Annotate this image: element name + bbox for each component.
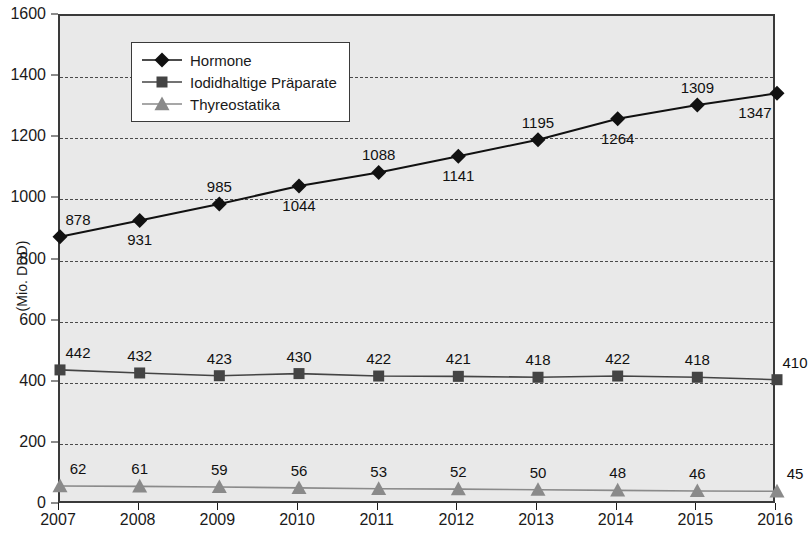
- data-point-label: 931: [127, 232, 152, 247]
- data-point-label: 421: [446, 351, 471, 366]
- plot-area: 8789319851044108811411195126413091347442…: [58, 14, 775, 503]
- data-point-label: 45: [787, 466, 804, 481]
- x-tick-label: 2008: [103, 512, 173, 528]
- y-tick-label: 200: [0, 434, 46, 450]
- series-2: [55, 364, 783, 385]
- y-tick-label: 1000: [0, 189, 46, 205]
- data-point-marker: [294, 368, 305, 379]
- data-point-label: 410: [782, 354, 807, 369]
- data-point-marker: [214, 370, 225, 381]
- x-tick-mark: [138, 503, 139, 510]
- data-point-marker: [53, 229, 68, 244]
- data-point-label: 52: [450, 464, 467, 479]
- y-tick-mark: [51, 197, 58, 198]
- data-point-marker: [770, 86, 785, 101]
- data-point-marker: [451, 149, 466, 164]
- data-point-marker: [692, 372, 703, 383]
- data-point-marker: [453, 371, 464, 382]
- data-point-label: 62: [70, 461, 87, 476]
- x-tick-label: 2009: [182, 512, 252, 528]
- data-point-label: 56: [291, 462, 308, 477]
- data-point-label: 1044: [282, 197, 315, 212]
- diamond-marker-icon: [140, 50, 184, 70]
- plot-inner: 8789319851044108811411195126413091347442…: [60, 16, 773, 501]
- data-point-label: 50: [530, 464, 547, 479]
- y-tick-label: 400: [0, 373, 46, 389]
- legend-item-1[interactable]: Hormone: [140, 49, 337, 71]
- x-tick-mark: [377, 503, 378, 510]
- series-line: [60, 370, 777, 380]
- x-tick-mark: [536, 503, 537, 510]
- data-point-marker: [134, 367, 145, 378]
- x-tick-label: 2010: [262, 512, 332, 528]
- data-point-label: 1195: [522, 114, 554, 129]
- x-tick-mark: [297, 503, 298, 510]
- data-point-label: 61: [131, 461, 148, 476]
- data-point-marker: [55, 364, 66, 375]
- legend-item-label: Hormone: [184, 53, 252, 68]
- x-tick-mark: [456, 503, 457, 510]
- legend-item-3[interactable]: Thyreostatika: [140, 93, 337, 115]
- x-tick-mark: [775, 503, 776, 510]
- y-tick-mark: [51, 319, 58, 320]
- data-point-marker: [531, 132, 546, 147]
- series-3: [53, 479, 785, 498]
- series-line: [60, 486, 777, 491]
- x-tick-mark: [217, 503, 218, 510]
- data-point-marker: [612, 371, 623, 382]
- y-tick-mark: [51, 441, 58, 442]
- data-point-marker: [132, 213, 147, 228]
- x-tick-label: 2014: [581, 512, 651, 528]
- data-point-marker: [772, 374, 783, 385]
- triangle-marker-icon: [140, 94, 184, 114]
- y-tick-mark: [51, 14, 58, 15]
- legend-item-label: Iodidhaltige Präparate: [184, 75, 337, 90]
- data-point-marker: [610, 111, 625, 126]
- data-point-label: 985: [207, 178, 232, 193]
- data-point-label: 423: [207, 350, 232, 365]
- y-tick-label: 1400: [0, 67, 46, 83]
- data-point-marker: [373, 371, 384, 382]
- x-tick-label: 2015: [660, 512, 730, 528]
- data-point-label: 46: [689, 465, 706, 480]
- y-tick-mark: [51, 503, 58, 504]
- y-tick-label: 600: [0, 312, 46, 328]
- data-point-marker: [292, 178, 307, 193]
- x-tick-mark: [58, 503, 59, 510]
- data-point-marker: [690, 97, 705, 112]
- x-tick-mark: [616, 503, 617, 510]
- x-tick-label: 2007: [23, 512, 93, 528]
- data-point-label: 1347: [738, 105, 771, 120]
- data-point-label: 422: [366, 351, 391, 366]
- y-tick-label: 1200: [0, 128, 46, 144]
- data-point-label: 442: [65, 344, 90, 359]
- data-point-label: 418: [525, 352, 550, 367]
- data-point-label: 1264: [601, 130, 634, 145]
- data-point-label: 1309: [681, 79, 714, 94]
- legend[interactable]: HormoneIodidhaltige PräparateThyreostati…: [131, 42, 350, 122]
- data-point-label: 422: [605, 351, 630, 366]
- data-point-label: 418: [685, 352, 710, 367]
- legend-item-2[interactable]: Iodidhaltige Präparate: [140, 71, 337, 93]
- y-tick-mark: [51, 380, 58, 381]
- y-tick-mark: [51, 136, 58, 137]
- x-tick-label: 2013: [501, 512, 571, 528]
- y-tick-mark: [51, 75, 58, 76]
- x-tick-label: 2012: [421, 512, 491, 528]
- y-tick-label: 1600: [0, 6, 46, 22]
- data-point-label: 48: [609, 465, 626, 480]
- x-tick-mark: [695, 503, 696, 510]
- y-tick-label: 0: [0, 495, 46, 511]
- x-tick-label: 2016: [740, 512, 810, 528]
- square-marker-icon: [140, 72, 184, 92]
- data-point-label: 1088: [362, 147, 395, 162]
- data-point-label: 430: [286, 348, 311, 363]
- data-point-marker: [371, 165, 386, 180]
- y-tick-label: 800: [0, 251, 46, 267]
- y-tick-mark: [51, 258, 58, 259]
- data-point-label: 1141: [442, 168, 474, 183]
- data-point-marker: [212, 196, 227, 211]
- x-tick-label: 2011: [342, 512, 412, 528]
- data-point-label: 59: [211, 461, 228, 476]
